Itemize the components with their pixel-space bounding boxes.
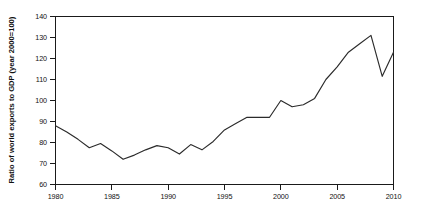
chart-figure: Ratio of world exports to GDP (year 2000… [0, 0, 423, 223]
x-tick-label-1990: 1990 [160, 192, 176, 201]
y-tick-label-60: 60 [39, 180, 47, 189]
x-tick-label-1980: 1980 [48, 192, 64, 201]
x-tick-label-1985: 1985 [104, 192, 120, 201]
y-tick-label-70: 70 [39, 159, 47, 168]
y-tick-label-100: 100 [35, 96, 47, 105]
line-chart: Ratio of world exports to GDP (year 2000… [0, 0, 423, 223]
y-tick-label-110: 110 [36, 75, 47, 84]
y-axis-ticks: 140 130 120 110 100 90 80 70 60 [35, 12, 55, 189]
x-tick-label-2010: 2010 [386, 192, 402, 201]
x-tick-label-2005: 2005 [329, 192, 345, 201]
y-tick-label-120: 120 [35, 54, 47, 63]
y-tick-label-80: 80 [39, 138, 47, 147]
x-axis-ticks: 1980 1985 1990 1995 2000 2005 2010 [48, 185, 402, 202]
y-axis-title: Ratio of world exports to GDP (year 2000… [7, 16, 16, 183]
x-tick-label-2000: 2000 [273, 192, 289, 201]
y-tick-label-130: 130 [35, 33, 47, 42]
data-series-line [56, 35, 394, 159]
axis-frame [56, 17, 394, 185]
y-tick-label-90: 90 [39, 117, 47, 126]
y-tick-label-140: 140 [35, 12, 47, 21]
x-tick-label-1995: 1995 [217, 192, 233, 201]
